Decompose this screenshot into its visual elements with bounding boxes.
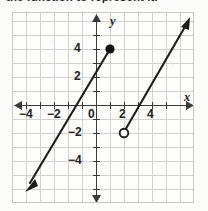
y-axis-label: y <box>110 14 116 29</box>
x-tick-label-zero: 0 <box>88 107 95 121</box>
x-tick-label-4: 4 <box>147 107 154 121</box>
function-graph <box>13 13 194 203</box>
x-tick-label-2: 2 <box>119 107 126 121</box>
x-axis-label: x <box>184 90 190 105</box>
coordinate-graph <box>12 12 194 203</box>
open-point-marker <box>120 129 129 138</box>
closed-point-marker <box>105 44 114 53</box>
x-tick-label-neg4: −4 <box>19 107 33 121</box>
worksheet-page: the function to represent it. <box>0 0 208 211</box>
prompt-text: the function to represent it. <box>6 0 206 3</box>
y-tick-label-neg4: −4 <box>68 153 82 167</box>
y-tick-label-2: 2 <box>74 69 81 83</box>
y-tick-label-4: 4 <box>74 41 81 55</box>
x-tick-label-neg2: −2 <box>47 107 61 121</box>
y-tick-label-neg2: −2 <box>68 125 82 139</box>
right-ray-arrowhead <box>181 17 190 30</box>
right-ray-line <box>124 25 186 132</box>
